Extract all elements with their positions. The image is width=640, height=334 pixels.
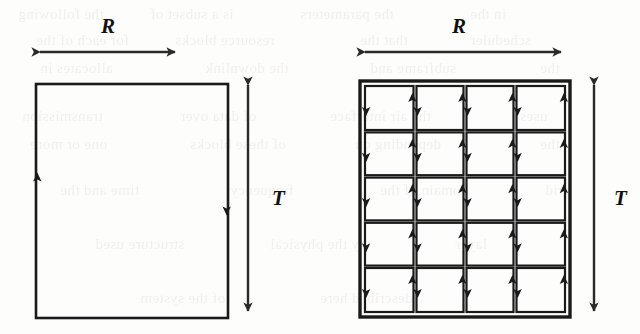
grid-cell	[517, 132, 566, 175]
grid-cell	[467, 223, 514, 266]
grid-cell	[417, 86, 464, 130]
grid-cell	[365, 86, 414, 130]
dimension-label-T-left: T	[272, 186, 285, 211]
grid-cell	[467, 132, 514, 175]
dimension-label-R-right: R	[452, 14, 466, 39]
grid-cell	[517, 86, 566, 130]
grid-cell	[417, 132, 464, 175]
grid-cell	[467, 86, 514, 130]
grid-cell	[365, 178, 414, 221]
figure-drawing	[0, 0, 640, 334]
grid-cell	[517, 178, 566, 221]
dimension-label-R-left: R	[101, 14, 115, 39]
grid-cell	[417, 268, 464, 312]
grid-cell	[467, 178, 514, 221]
figure-container: the followingis a subset ofthe parameter…	[0, 0, 640, 334]
grid-cell	[517, 223, 566, 266]
grid-cell	[417, 178, 464, 221]
grid-cell	[417, 223, 464, 266]
grid-cell	[517, 268, 566, 312]
dimension-label-T-right: T	[614, 186, 627, 211]
grid-cell	[365, 268, 414, 312]
undivided-block-outline	[36, 84, 228, 318]
grid-cell	[365, 132, 414, 175]
grid-cell	[467, 268, 514, 312]
grid-cell	[365, 223, 414, 266]
